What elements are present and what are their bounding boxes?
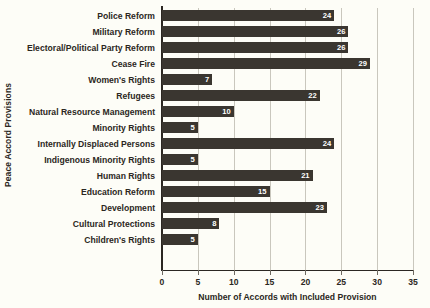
x-axis-tick-label: 5 [183, 277, 213, 287]
category-label: Internally Displaced Persons [38, 136, 156, 152]
bar-value-label: 8 [162, 218, 219, 229]
x-axis-tick-label: 25 [326, 277, 356, 287]
y-axis-title-text: Peace Accord Provisions [3, 83, 13, 187]
x-axis-tick-label: 0 [147, 277, 177, 287]
x-axis-tick [305, 270, 306, 275]
category-label: Human Rights [97, 168, 155, 184]
bar-row: 5 [162, 152, 413, 168]
category-label: Natural Resource Management [29, 104, 155, 120]
bar-row: 7 [162, 72, 413, 88]
category-label: Military Reform [92, 24, 155, 40]
x-axis-tick-label: 20 [290, 277, 320, 287]
bar-row: 5 [162, 232, 413, 248]
bar-row: 8 [162, 216, 413, 232]
category-label: Indigenous Minority Rights [44, 152, 155, 168]
bar-value-label: 7 [162, 74, 212, 85]
category-label: Police Reform [97, 8, 155, 24]
x-axis-title: Number of Accords with Included Provisio… [162, 292, 413, 302]
category-label: Education Reform [81, 184, 155, 200]
bar-row: 24 [162, 136, 413, 152]
bar-row: 15 [162, 184, 413, 200]
x-axis-tick-label: 10 [219, 277, 249, 287]
x-axis-tick-label: 15 [255, 277, 285, 287]
bar-row: 23 [162, 200, 413, 216]
bar-value-label: 5 [162, 154, 198, 165]
bar-chart: Peace Accord Provisions Police ReformMil… [0, 0, 430, 308]
bar-value-label: 10 [162, 106, 234, 117]
bar-value-label: 29 [162, 58, 370, 69]
bar-row: 21 [162, 168, 413, 184]
category-label: Cease Fire [112, 56, 155, 72]
x-axis-tick [413, 270, 414, 275]
bar-value-label: 5 [162, 122, 198, 133]
bar-row: 24 [162, 8, 413, 24]
x-axis-tick [234, 270, 235, 275]
bar-value-label: 15 [162, 186, 270, 197]
gridline [413, 8, 414, 270]
category-label: Cultural Protections [73, 216, 155, 232]
category-label: Minority Rights [92, 120, 155, 136]
bar-value-label: 5 [162, 234, 198, 245]
bar-row: 5 [162, 120, 413, 136]
x-axis-tick [377, 270, 378, 275]
category-label: Development [101, 200, 155, 216]
category-label: Refugees [116, 88, 155, 104]
bar-row: 26 [162, 24, 413, 40]
bar-row: 29 [162, 56, 413, 72]
bar-value-label: 24 [162, 10, 334, 21]
x-axis-tick [162, 270, 163, 275]
bar-value-label: 26 [162, 42, 348, 53]
category-label: Electoral/Political Party Reform [27, 40, 155, 56]
bar-value-label: 26 [162, 26, 348, 37]
x-axis-line [161, 270, 414, 271]
bar-value-label: 21 [162, 170, 313, 181]
x-axis-tick-label: 30 [362, 277, 392, 287]
x-axis-tick [270, 270, 271, 275]
bar-value-label: 24 [162, 138, 334, 149]
bar-value-label: 22 [162, 90, 320, 101]
y-axis-title: Peace Accord Provisions [0, 0, 16, 270]
bar-row: 26 [162, 40, 413, 56]
x-axis-tick [341, 270, 342, 275]
bar-value-label: 23 [162, 202, 327, 213]
category-label: Children's Rights [84, 232, 155, 248]
bar-row: 22 [162, 88, 413, 104]
x-axis-tick-label: 35 [398, 277, 428, 287]
bar-row: 10 [162, 104, 413, 120]
category-label: Women's Rights [88, 72, 155, 88]
y-axis-category-labels: Police ReformMilitary ReformElectoral/Po… [16, 8, 159, 270]
plot-area: 2426262972210524521152385 [162, 8, 413, 270]
x-axis-tick [198, 270, 199, 275]
